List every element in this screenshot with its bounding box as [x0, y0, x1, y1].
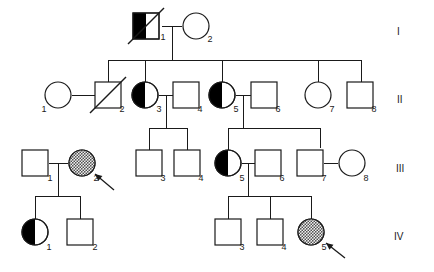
female-symbol — [339, 150, 365, 176]
individual-II-4 — [173, 82, 199, 108]
pedigree-canvas: 12123456781234567812345 IIIIIIIV — [0, 0, 434, 272]
individual-id-label-III-6: 6 — [279, 173, 284, 183]
individual-id-label-II-1: 1 — [41, 104, 46, 114]
individual-id-label-II-4: 4 — [197, 104, 202, 114]
individual-III-3 — [136, 150, 162, 176]
pedigree-chart: 12123456781234567812345 IIIIIIIV — [0, 0, 434, 272]
generation-labels: IIIIIIIV — [394, 26, 404, 242]
individual-id-label-II-5: 5 — [233, 104, 238, 114]
individual-id-label-III-8: 8 — [363, 173, 368, 183]
individual-id-label-II-7: 7 — [329, 104, 334, 114]
individual-I-2 — [183, 13, 209, 39]
individual-IV-4 — [257, 219, 283, 245]
male-symbol — [297, 150, 323, 176]
individual-II-6 — [251, 82, 277, 108]
male-symbol — [67, 219, 93, 245]
male-symbol — [255, 150, 281, 176]
individual-III-5 — [215, 150, 241, 176]
half-filled-left — [132, 82, 145, 108]
generation-label-III: III — [396, 163, 404, 174]
half-filled-left — [133, 13, 146, 39]
generation-label-IV: IV — [394, 231, 404, 242]
stippled-fill — [69, 150, 95, 176]
individual-id-label-II-8: 8 — [371, 104, 376, 114]
individual-symbols — [22, 8, 373, 245]
male-symbol — [22, 150, 48, 176]
individual-III-1 — [22, 150, 48, 176]
individual-id-label-II-2: 2 — [119, 104, 124, 114]
half-filled-left — [22, 219, 35, 245]
individual-II-8 — [347, 82, 373, 108]
individual-II-7 — [305, 82, 331, 108]
male-symbol — [257, 219, 283, 245]
individual-III-8 — [339, 150, 365, 176]
individual-IV-1 — [22, 219, 48, 245]
individual-id-label-II-6: 6 — [275, 104, 280, 114]
individual-id-label-I-2: 2 — [207, 34, 212, 44]
individual-III-4 — [174, 150, 200, 176]
individual-I-1 — [128, 8, 164, 44]
individual-id-label-III-2: 2 — [93, 173, 98, 183]
male-symbol — [136, 150, 162, 176]
male-symbol — [174, 150, 200, 176]
individual-id-label-IV-4: 4 — [281, 242, 286, 252]
individual-II-1 — [45, 82, 71, 108]
female-symbol — [305, 82, 331, 108]
generation-label-II: II — [397, 94, 403, 105]
individual-IV-5 — [298, 219, 324, 245]
individual-III-7 — [297, 150, 323, 176]
female-symbol — [45, 82, 71, 108]
individual-id-label-III-5: 5 — [239, 173, 244, 183]
half-filled-left — [209, 82, 222, 108]
individual-id-label-I-1: 1 — [160, 32, 165, 42]
individual-id-label-III-3: 3 — [160, 173, 165, 183]
individual-id-label-III-7: 7 — [321, 173, 326, 183]
individual-id-label-IV-5: 5 — [321, 242, 326, 252]
individual-id-label-IV-2: 2 — [92, 242, 97, 252]
individual-id-label-III-1: 1 — [47, 173, 52, 183]
proband-arrow-IV-5 — [326, 243, 345, 258]
individual-III-2 — [69, 150, 95, 176]
individual-IV-3 — [215, 219, 241, 245]
male-symbol — [173, 82, 199, 108]
individual-III-6 — [255, 150, 281, 176]
individual-id-label-III-4: 4 — [198, 173, 203, 183]
generation-label-I: I — [397, 26, 400, 37]
individual-II-5 — [209, 82, 235, 108]
half-filled-left — [215, 150, 228, 176]
individual-id-label-IV-3: 3 — [239, 242, 244, 252]
individual-IV-2 — [67, 219, 93, 245]
individual-id-label-II-3: 3 — [156, 104, 161, 114]
connection-lines — [35, 26, 361, 219]
stippled-fill — [298, 219, 324, 245]
male-symbol — [251, 82, 277, 108]
individual-II-3 — [132, 82, 158, 108]
male-symbol — [215, 219, 241, 245]
female-symbol — [183, 13, 209, 39]
male-symbol — [347, 82, 373, 108]
individual-id-label-IV-1: 1 — [46, 242, 51, 252]
